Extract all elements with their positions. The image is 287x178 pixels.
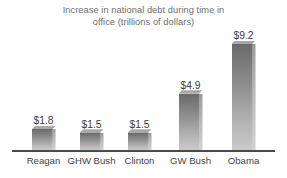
bar-front-face [179, 94, 199, 150]
bar-clinton[interactable]: $1.5 [128, 133, 152, 150]
bar-front-face [32, 129, 52, 150]
bar-value-label: $4.9 [179, 80, 203, 91]
bar-shape [232, 44, 256, 150]
bar-side-face [100, 133, 104, 150]
bar-reagan[interactable]: $1.8 [32, 129, 56, 150]
x-axis-line [12, 150, 275, 152]
bar-value-label: $1.5 [80, 119, 104, 130]
bar-side-face [252, 44, 256, 150]
bar-front-face [232, 44, 252, 150]
bar-shape [80, 133, 104, 150]
bar-ghw-bush[interactable]: $1.5 [80, 133, 104, 150]
bar-value-label: $1.5 [128, 119, 152, 130]
x-axis-label-obama: Obama [204, 155, 284, 167]
bar-shape [179, 94, 203, 150]
bar-front-face [80, 133, 100, 150]
bar-value-label: $9.2 [232, 30, 256, 41]
bar-shape [128, 133, 152, 150]
bar-side-face [148, 133, 152, 150]
bar-shape [32, 129, 56, 150]
bar-value-label: $1.8 [32, 115, 56, 126]
plot-area: $1.8 $1.5 $1.5 [0, 0, 287, 178]
bar-side-face [199, 94, 203, 150]
bar-front-face [128, 133, 148, 150]
bar-obama[interactable]: $9.2 [232, 44, 256, 150]
bar-gw-bush[interactable]: $4.9 [179, 94, 203, 150]
bar-side-face [52, 129, 56, 150]
bar-chart: Increase in national debt during time in… [0, 0, 287, 178]
